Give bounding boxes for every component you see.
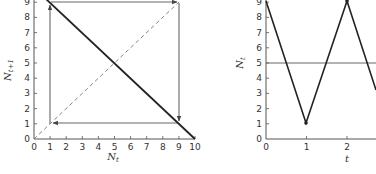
figure: 012345678910 0123456789 Nt Nt+1 012 0123… (0, 0, 376, 174)
y-tick-label: 6 (256, 43, 262, 53)
y-tick-label: 9 (24, 0, 30, 7)
x-tick-label: 6 (128, 142, 134, 152)
x-tick-label: 9 (176, 142, 182, 152)
y-tick-label: 1 (256, 119, 262, 129)
left-chart: 012345678910 0123456789 Nt Nt+1 (2, 0, 201, 164)
left-x-ticks: 012345678910 (31, 136, 201, 152)
y-tick-label: 3 (256, 88, 262, 98)
left-y-ticks: 0123456789 (24, 0, 37, 144)
y-tick-label: 2 (24, 104, 30, 114)
y-tick-label: 0 (256, 134, 262, 144)
map-line (46, 0, 195, 139)
left-y-title: Nt+1 (2, 59, 15, 82)
y-tick-label: 7 (24, 28, 30, 38)
right-chart: 012 0123456789 t Nt (234, 0, 376, 164)
y-tick-label: 5 (256, 58, 262, 68)
y-tick-label: 3 (24, 88, 30, 98)
y-tick-label: 1 (24, 119, 30, 129)
x-tick-label: 1 (47, 142, 53, 152)
y-tick-label: 8 (256, 12, 262, 22)
y-tick-label: 5 (24, 58, 30, 68)
left-x-title: Nt (106, 151, 119, 164)
x-tick-label: 2 (63, 142, 69, 152)
x-tick-label: 10 (189, 142, 201, 152)
x-tick-label: 4 (96, 142, 102, 152)
x-tick-label: 0 (263, 142, 269, 152)
y-tick-label: 4 (256, 73, 262, 83)
x-tick-label: 3 (79, 142, 85, 152)
x-tick-label: 8 (160, 142, 166, 152)
right-x-ticks: 012 (263, 136, 350, 152)
x-tick-label: 2 (344, 142, 350, 152)
right-x-title: t (345, 153, 350, 164)
x-tick-label: 0 (31, 142, 37, 152)
time-series-line (266, 1, 376, 123)
y-tick-label: 8 (24, 12, 30, 22)
right-y-ticks: 0123456789 (256, 0, 269, 144)
identity-line (34, 2, 179, 139)
y-tick-label: 6 (24, 43, 30, 53)
y-tick-label: 9 (256, 0, 262, 7)
y-tick-label: 2 (256, 104, 262, 114)
data-point (304, 121, 308, 125)
x-tick-label: 1 (304, 142, 310, 152)
y-tick-label: 0 (24, 134, 30, 144)
right-y-title: Nt (234, 57, 247, 70)
x-tick-label: 7 (144, 142, 150, 152)
y-tick-label: 7 (256, 28, 262, 38)
y-tick-label: 4 (24, 73, 30, 83)
